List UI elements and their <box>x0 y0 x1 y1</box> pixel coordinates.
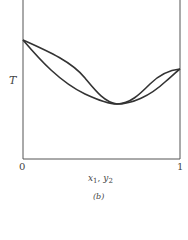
x-axis-label: x1, y2 <box>88 174 113 185</box>
x-tick-0: 0 <box>19 162 25 172</box>
dew-curve <box>23 40 180 104</box>
x-axis-sub2: 2 <box>108 177 112 185</box>
y-axis-label: T <box>9 75 16 86</box>
x-tick-1: 1 <box>177 162 183 172</box>
bubble-curve <box>23 40 180 104</box>
figure-caption: (b) <box>93 193 104 201</box>
